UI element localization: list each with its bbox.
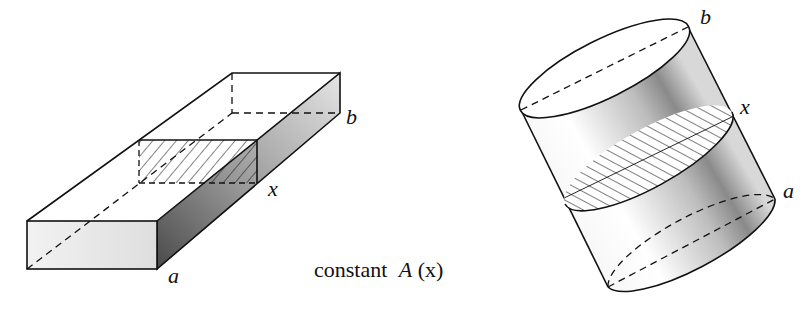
cylinder-label-x: x: [739, 94, 750, 119]
box-front-face: [27, 221, 157, 269]
caption-arg: (x): [418, 257, 444, 282]
diagram-canvas: b x a constant A (x) b x a: [0, 0, 812, 316]
box-label-a: a: [168, 263, 179, 288]
box-cross-section: [139, 140, 257, 183]
caption: constant A (x): [314, 257, 443, 282]
caption-prefix: constant: [314, 257, 387, 282]
caption-func: A: [397, 257, 413, 282]
cylinder-solid: b x a: [507, 1, 794, 292]
box-solid: b x a: [27, 73, 357, 288]
cylinder-label-a: a: [783, 178, 794, 203]
box-label-b: b: [346, 104, 357, 129]
cylinder-label-b: b: [700, 4, 711, 29]
box-label-x: x: [267, 176, 278, 201]
